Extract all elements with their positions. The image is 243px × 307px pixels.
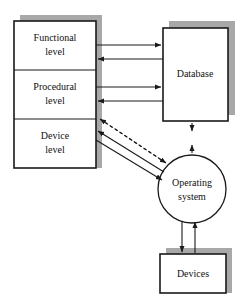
database-node[interactable]: Database [163,28,228,121]
procedural-level-label-line2: level [45,95,65,106]
architecture-diagram: Functional level Procedural level Device… [0,0,243,307]
database-label: Database [177,68,214,79]
operating-system-circle [158,155,226,223]
devices-node[interactable]: Devices [160,254,226,293]
operating-system-node[interactable]: Operating system [158,155,226,223]
procedural-level-label-line1: Procedural [33,81,77,92]
connection-device-level-to-operating-system [96,140,162,180]
operating-system-label-line1: Operating [172,177,212,188]
device-level-label-line1: Device [41,130,70,141]
operating-system-label-line2: system [178,191,206,202]
devices-label: Devices [177,268,209,279]
functional-level-label-line2: level [45,46,65,57]
functional-level-label-line1: Functional [34,32,77,43]
diagram-canvas: Functional level Procedural level Device… [0,0,243,307]
device-level-label-line2: level [45,144,65,155]
connection-operating-system-to-device-level [98,131,164,172]
